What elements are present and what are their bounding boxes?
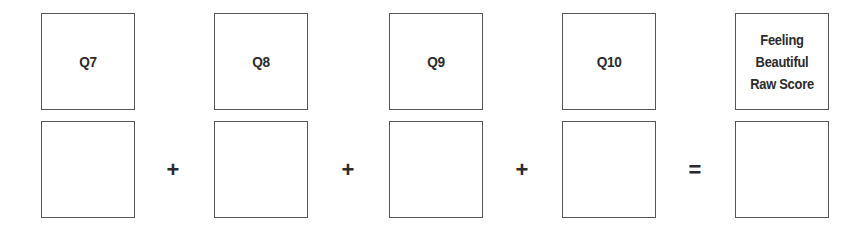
answer-box-raw-score[interactable] bbox=[735, 121, 829, 218]
plus-operator: + bbox=[338, 155, 358, 185]
plus-operator: + bbox=[512, 155, 532, 185]
header-label-raw-score: Feeling Beautiful Raw Score bbox=[750, 29, 814, 95]
answer-box-q9[interactable] bbox=[389, 121, 483, 218]
header-box-q7: Q7 bbox=[41, 13, 135, 110]
header-label-q9: Q9 bbox=[427, 53, 445, 71]
answer-box-q10[interactable] bbox=[562, 121, 656, 218]
header-label-q8: Q8 bbox=[252, 53, 270, 71]
header-box-raw-score: Feeling Beautiful Raw Score bbox=[735, 13, 829, 110]
answer-box-q8[interactable] bbox=[214, 121, 308, 218]
header-box-q10: Q10 bbox=[562, 13, 656, 110]
header-box-q8: Q8 bbox=[214, 13, 308, 110]
header-label-q10: Q10 bbox=[597, 53, 622, 71]
equals-operator: = bbox=[685, 155, 705, 185]
header-label-q7: Q7 bbox=[79, 53, 97, 71]
answer-box-q7[interactable] bbox=[41, 121, 135, 218]
header-box-q9: Q9 bbox=[389, 13, 483, 110]
plus-operator: + bbox=[163, 155, 183, 185]
